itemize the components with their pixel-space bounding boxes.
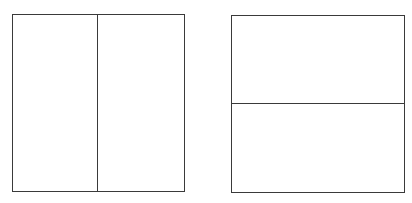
horizontal-divider-line [232, 103, 404, 104]
rectangle-split-vertically: vertical [12, 14, 185, 192]
rectangle-split-horizontally: horizontal [231, 15, 405, 193]
vertical-divider-line [97, 15, 98, 191]
